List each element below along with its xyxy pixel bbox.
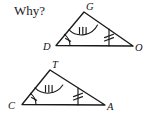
triangle-cta-outline <box>22 70 105 105</box>
angle-mark-d <box>64 34 70 45</box>
geometry-diagram: Why? D G O <box>0 0 147 119</box>
triangle-dgo-group: D G O <box>42 1 143 53</box>
angle-mark-g <box>69 25 98 35</box>
angle-mark-c <box>30 93 36 104</box>
vertex-label-a: A <box>106 101 114 112</box>
vertex-label-t: T <box>52 59 59 70</box>
vertex-label-c: C <box>8 100 16 111</box>
vertex-label-g: G <box>86 1 94 12</box>
geometry-figure-page: Why? D G O <box>0 0 147 119</box>
vertex-label-o: O <box>135 42 143 53</box>
triangle-cta-group: C T A <box>8 59 114 112</box>
vertex-label-d: D <box>42 41 51 52</box>
angle-mark-t <box>35 85 63 93</box>
prompt-label: Why? <box>14 3 45 18</box>
